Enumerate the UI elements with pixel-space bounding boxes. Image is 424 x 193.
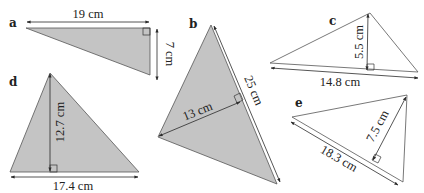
triangle-e: e 7.5 cm 18.3 cm: [291, 95, 407, 185]
triangle-c-letter: c: [329, 14, 336, 28]
triangle-a-letter: a: [9, 16, 17, 30]
triangle-d-shape: [10, 73, 139, 172]
triangle-d: d 12.7 cm 17.4 cm: [9, 73, 139, 193]
triangle-e-letter: e: [295, 96, 303, 110]
triangle-c: c 5.5 cm 14.8 cm: [270, 13, 418, 89]
triangle-a: a 19 cm 7 cm: [9, 7, 177, 80]
triangle-a-shape: [26, 28, 150, 75]
triangle-b-letter: b: [189, 17, 197, 31]
triangle-a-base-label: 19 cm: [73, 7, 104, 21]
triangle-d-base-label: 17.4 cm: [53, 179, 94, 193]
triangle-c-height-label: 5.5 cm: [352, 25, 366, 59]
triangle-c-shape: [270, 13, 418, 72]
triangle-c-base-label: 14.8 cm: [320, 75, 361, 89]
triangle-b-base-label: 25 cm: [241, 73, 266, 107]
triangles-diagram: a 19 cm 7 cm b 25 cm 13 cm c 5.5 cm 14.8…: [0, 0, 424, 193]
triangle-d-letter: d: [9, 75, 18, 89]
triangle-a-height-label: 7 cm: [163, 42, 177, 67]
triangle-d-height-label: 12.7 cm: [53, 102, 67, 143]
